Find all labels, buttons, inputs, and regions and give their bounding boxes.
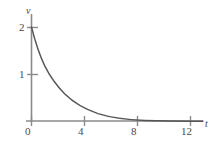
x-tick-label-8: 8 — [131, 126, 137, 137]
x-tick-label-12: 12 — [181, 126, 192, 137]
data-curve-v-of-t — [32, 27, 204, 121]
y-tick-label-1: 1 — [19, 69, 25, 80]
x-axis-label: t — [205, 119, 208, 129]
x-tick-label-0: 0 — [25, 126, 31, 137]
y-tick-label-2: 2 — [19, 22, 25, 33]
figure-exponential-decay-plot: 0 4 8 12 1 2 t v — [0, 0, 219, 160]
y-axis-label: v — [26, 6, 30, 16]
x-tick-label-4: 4 — [78, 126, 84, 137]
y-axis-ticks — [27, 28, 38, 75]
